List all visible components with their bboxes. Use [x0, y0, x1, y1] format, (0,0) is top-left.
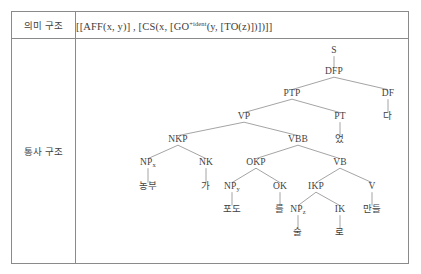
syntax-tree-cell: SDFPPTPDF다VPPT었NKPVBBNPxNK농부가OKPVBNPyOK포…	[76, 39, 409, 264]
tree-node-OKt: 를	[275, 204, 284, 214]
tree-branch	[178, 122, 244, 135]
tree-node-subscript: y	[237, 185, 241, 192]
tree-node-DF: DF	[382, 88, 395, 98]
tree-node-NK: NK	[199, 157, 213, 167]
tree-node-IKP: IKP	[308, 181, 324, 191]
syntax-tree-wrapper: SDFPPTPDF다VPPT었NKPVBBNPxNK농부가OKPVBNPyOK포…	[76, 39, 408, 263]
lcs-formula-superscript: +ident	[189, 20, 207, 27]
tree-node-NPx: NPx	[140, 157, 157, 168]
tree-node-DFt: 다	[383, 111, 392, 121]
semantic-structure-cell: [[AFF(x, y)] , [CS(x, [GO+ident(y, [TO(z…	[76, 12, 409, 39]
structure-table: 의미 구조 [[AFF(x, y)] , [CS(x, [GO+ident(y,…	[11, 11, 409, 264]
table-row-syntactic: 통사 구조 SDFPPTPDF다VPPT었NKPVBBNPxNK농부가OKPVB…	[12, 39, 409, 264]
tree-node-NPy: NPy	[224, 181, 241, 192]
lcs-formula-suffix: (y, [TO(z)])])]]	[207, 21, 273, 32]
tree-node-NPyt: 포도	[223, 204, 241, 214]
tree-node-NKt: 가	[201, 181, 210, 191]
tree-node-NPz: NPz	[290, 204, 306, 215]
tree-node-OK: OK	[273, 181, 287, 191]
lcs-formula-prefix: [[AFF(x, y)] , [CS(x, [GO	[76, 21, 189, 32]
tree-node-PTP: PTP	[284, 88, 301, 98]
tree-node-PT: PT	[334, 111, 346, 121]
tree-node-NPxt: 농부	[139, 181, 157, 191]
page-root: 의미 구조 [[AFF(x, y)] , [CS(x, [GO+ident(y,…	[0, 0, 421, 274]
tree-node-VBB: VBB	[288, 134, 308, 144]
tree-node-group: SDFPPTPDF다VPPT었NKPVBBNPxNK농부가OKPVBNPyOK포…	[139, 45, 394, 237]
tree-node-VP: VP	[238, 111, 251, 121]
tree-node-IK: IK	[335, 204, 345, 214]
tree-node-VB: VB	[333, 157, 347, 167]
row-label-semantic: 의미 구조	[12, 12, 76, 39]
tree-node-OKP: OKP	[246, 157, 266, 167]
tree-node-NPzt: 술	[293, 227, 302, 237]
tree-node-subscript: z	[303, 208, 306, 215]
lcs-formula: [[AFF(x, y)] , [CS(x, [GO+ident(y, [TO(z…	[76, 21, 272, 32]
table-row-semantic: 의미 구조 [[AFF(x, y)] , [CS(x, [GO+ident(y,…	[12, 12, 409, 39]
tree-node-subscript: x	[153, 161, 157, 168]
tree-node-DFP: DFP	[325, 66, 343, 76]
tree-node-NKP: NKP	[168, 134, 188, 144]
tree-node-V: V	[368, 181, 375, 191]
syntax-tree-diagram: SDFPPTPDF다VPPT었NKPVBBNPxNK농부가OKPVBNPyOK포…	[76, 39, 408, 263]
tree-branch	[292, 99, 340, 112]
tree-branch	[340, 168, 372, 182]
tree-node-Vt: 만들	[363, 204, 381, 214]
tree-node-S: S	[331, 45, 336, 55]
tree-node-IKt: 로	[335, 227, 344, 237]
tree-branch	[334, 77, 388, 89]
tree-node-PTt: 었	[335, 133, 344, 144]
row-label-syntactic: 통사 구조	[12, 39, 76, 264]
tree-branch	[244, 99, 292, 112]
